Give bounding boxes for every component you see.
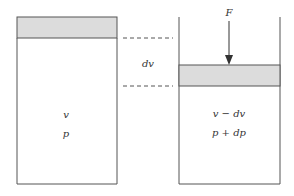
force-label: F <box>225 7 234 18</box>
force-arrow-head-icon <box>225 55 233 65</box>
right-pressure-label: p + dp <box>212 127 247 138</box>
displacement-label: dv <box>142 58 154 69</box>
left-cylinder: v p <box>17 17 117 184</box>
left-piston <box>17 17 117 38</box>
piston-diagram: v p dv F v − dv p + dp <box>0 0 294 196</box>
left-pressure-label: p <box>63 128 70 139</box>
right-cylinder: F v − dv p + dp <box>179 7 280 184</box>
left-volume-label: v <box>63 109 69 120</box>
right-volume-label: v − dv <box>213 108 246 119</box>
displacement-guides: dv <box>123 38 173 86</box>
right-piston <box>179 65 280 86</box>
